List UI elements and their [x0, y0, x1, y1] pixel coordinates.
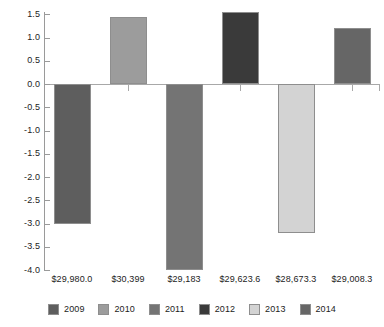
- legend-item-2011[interactable]: 2011: [149, 304, 185, 315]
- y-axis-tick-label: 1.5: [6, 10, 40, 19]
- y-axis-tick-mark: [44, 38, 50, 39]
- legend-swatch-icon: [199, 304, 210, 315]
- y-axis-tick-mark: [44, 131, 50, 132]
- legend-label: 2009: [64, 304, 84, 314]
- y-axis-tick-label: -2.0: [6, 173, 40, 182]
- legend-item-2010[interactable]: 2010: [98, 304, 134, 315]
- y-axis-tick-mark: [44, 14, 50, 15]
- x-axis-tick-label: $30,399: [96, 274, 160, 285]
- legend-label: 2010: [114, 304, 134, 314]
- bar-2010: [110, 17, 147, 84]
- y-axis-tick-label: -1.0: [6, 126, 40, 135]
- legend-item-2014[interactable]: 2014: [300, 304, 336, 315]
- y-axis-tick-label: -4.0: [6, 266, 40, 275]
- y-axis-tick-label: 0.0: [6, 80, 40, 89]
- chart-legend: 200920102011201220132014: [0, 301, 384, 317]
- y-axis-tick-labels: 1.51.00.50.0-0.5-1.0-1.5-2.0-2.5-3.0-3.5…: [0, 0, 40, 327]
- legend-label: 2014: [316, 304, 336, 314]
- y-axis-tick-label: -1.5: [6, 149, 40, 158]
- y-axis-tick-mark: [44, 107, 50, 108]
- y-axis-tick-mark: [44, 200, 50, 201]
- bar-2014: [334, 28, 371, 84]
- bar-2009: [54, 84, 91, 224]
- y-axis-tick-mark: [44, 270, 50, 271]
- x-axis-tick-label: $29,980.0: [40, 274, 104, 285]
- y-axis-tick-label: -0.5: [6, 103, 40, 112]
- y-axis-tick-label: 0.5: [6, 56, 40, 65]
- y-axis-tick-label: 1.0: [6, 33, 40, 42]
- legend-swatch-icon: [249, 304, 260, 315]
- legend-label: 2012: [215, 304, 235, 314]
- y-axis-tick-mark: [44, 224, 50, 225]
- legend-swatch-icon: [300, 304, 311, 315]
- legend-label: 2013: [265, 304, 285, 314]
- legend-swatch-icon: [48, 304, 59, 315]
- y-axis-tick-label: -3.0: [6, 219, 40, 228]
- y-axis-tick-mark: [44, 177, 50, 178]
- legend-item-2009[interactable]: 2009: [48, 304, 84, 315]
- x-axis-tick-label: $29,008.3: [320, 274, 384, 285]
- bar-2012: [222, 12, 259, 84]
- plot-area: [44, 12, 380, 270]
- legend-swatch-icon: [149, 304, 160, 315]
- y-axis-tick-label: -3.5: [6, 242, 40, 251]
- bar-2013: [278, 84, 315, 233]
- y-axis-tick-label: -2.5: [6, 196, 40, 205]
- x-axis-labels: $29,980.0$30,399$29,183$29,623.6$28,673.…: [44, 274, 380, 290]
- legend-item-2012[interactable]: 2012: [199, 304, 235, 315]
- bar-chart: 1.51.00.50.0-0.5-1.0-1.5-2.0-2.5-3.0-3.5…: [0, 0, 384, 327]
- y-axis-tick-mark: [44, 61, 50, 62]
- legend-swatch-icon: [98, 304, 109, 315]
- y-axis-tick-mark: [44, 154, 50, 155]
- y-axis-tick-mark: [44, 247, 50, 248]
- legend-label: 2011: [165, 304, 185, 314]
- x-axis-tick-label: $29,183: [152, 274, 216, 285]
- x-axis-tick-label: $29,623.6: [208, 274, 272, 285]
- y-axis-tick-mark: [44, 84, 50, 85]
- legend-item-2013[interactable]: 2013: [249, 304, 285, 315]
- x-axis-tick-label: $28,673.3: [264, 274, 328, 285]
- bar-2011: [166, 84, 203, 270]
